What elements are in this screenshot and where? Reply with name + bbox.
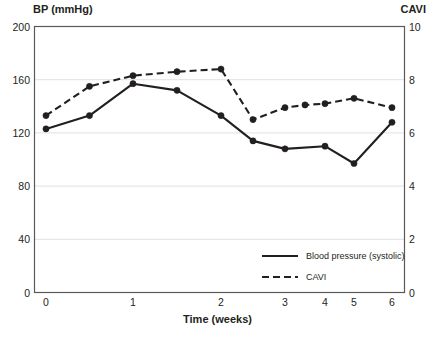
- data-point: [250, 117, 256, 123]
- data-point: [389, 119, 395, 125]
- data-point: [218, 113, 224, 119]
- data-point: [43, 113, 49, 119]
- chart-legend: Blood pressure (systolic)CAVI: [262, 251, 405, 282]
- data-point: [322, 143, 328, 149]
- data-point: [86, 83, 92, 89]
- data-point: [351, 95, 357, 101]
- data-point: [218, 66, 224, 72]
- data-point: [389, 105, 395, 111]
- data-point: [302, 102, 308, 108]
- legend-label-1: CAVI: [306, 272, 326, 282]
- data-point: [86, 113, 92, 119]
- plot-area: Blood pressure (systolic)CAVI: [0, 0, 435, 338]
- data-series-layer: [43, 66, 395, 167]
- data-point: [322, 101, 328, 107]
- data-point: [282, 105, 288, 111]
- data-point: [130, 81, 136, 87]
- chart-container: BP (mmHg) CAVI Time (weeks) 040801201602…: [0, 0, 435, 338]
- data-point: [43, 126, 49, 132]
- series-line-1: [46, 69, 392, 120]
- data-point: [130, 73, 136, 79]
- data-point: [174, 87, 180, 93]
- data-point: [351, 160, 357, 166]
- data-point: [250, 138, 256, 144]
- data-point: [174, 69, 180, 75]
- legend-label-0: Blood pressure (systolic): [306, 251, 405, 261]
- series-line-0: [46, 84, 392, 164]
- data-point: [282, 146, 288, 152]
